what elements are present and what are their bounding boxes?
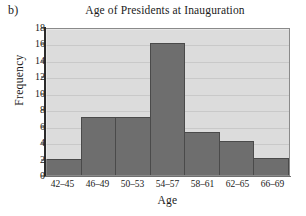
bar-series [46,29,289,175]
y-axis-tick-mark [41,110,45,111]
bar [253,158,289,175]
x-axis-line [44,176,291,177]
y-axis-tick-mark [41,143,45,144]
plot-area [45,28,290,176]
y-axis-tick-label: 14 [5,56,45,66]
x-axis-tick-label: 66–69 [255,178,290,190]
y-axis-tick-label: 10 [5,89,45,99]
y-axis-tick-mark [41,28,45,29]
y-axis-tick-mark [41,93,45,94]
chart-title: Age of Presidents at Inauguration [40,3,290,17]
x-axis-tick-label: 50–53 [115,178,150,190]
y-axis-tick-mark [41,77,45,78]
y-axis-tick-mark [41,126,45,127]
y-axis-tick-label: 0 [5,171,45,181]
x-axis-tick-label: 62–65 [220,178,255,190]
y-axis-tick-mark [41,159,45,160]
bar [219,141,255,175]
x-axis-tick-label: 58–61 [185,178,220,190]
bar [46,159,82,175]
x-axis-tick-label: 54–57 [150,178,185,190]
bar [115,117,151,175]
x-axis-title: Age [45,194,290,207]
y-axis-tick-label: 12 [5,72,45,82]
y-axis-title: Frequency [13,35,25,125]
x-axis-ticks: 42–4546–4950–5354–5758–6162–6566–69 [45,178,290,190]
y-axis-tick-label: 16 [5,39,45,49]
y-axis-tick-mark [41,60,45,61]
y-axis-tick-label: 4 [5,138,45,148]
y-axis-tick-label: 8 [5,105,45,115]
x-axis-tick-label: 42–45 [45,178,80,190]
bar [150,43,186,175]
y-axis-tick-label: 2 [5,155,45,165]
y-axis-tick-label: 18 [5,23,45,33]
y-axis-tick-mark [41,176,45,177]
bar [184,132,220,175]
bar [81,117,117,175]
y-axis-tick-mark [41,44,45,45]
x-axis-tick-label: 46–49 [80,178,115,190]
y-axis-tick-label: 6 [5,122,45,132]
